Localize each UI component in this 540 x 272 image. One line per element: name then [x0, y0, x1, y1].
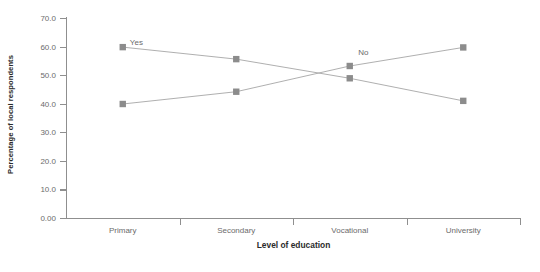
data-point-marker — [460, 98, 466, 104]
data-point-marker — [460, 44, 466, 50]
data-point-marker — [233, 89, 239, 95]
y-axis-tick-mark — [60, 218, 66, 219]
data-point-marker — [120, 101, 126, 107]
series-label-yes: Yes — [130, 38, 143, 47]
y-axis-tick-label: 50.0 — [22, 71, 56, 80]
data-point-marker — [347, 63, 353, 69]
y-axis-tick-mark — [60, 189, 66, 190]
y-axis-tick-labels: 0.0010.020.030.040.050.060.070.0 — [22, 0, 56, 272]
x-axis-category-label: Primary — [109, 226, 137, 235]
series-no — [120, 44, 467, 107]
x-axis-category-label: Secondary — [217, 226, 255, 235]
x-axis-tick-mark — [180, 219, 181, 225]
x-axis-tick-mark — [293, 219, 294, 225]
series-yes — [120, 44, 467, 104]
x-axis-category-label: Vocational — [331, 226, 368, 235]
y-axis-tick-label: 70.0 — [22, 14, 56, 23]
y-axis-line — [66, 17, 67, 219]
y-axis-tick-mark — [60, 75, 66, 76]
chart-figure: Percentage of local respondents 0.0010.0… — [0, 0, 540, 272]
y-axis-tick-mark — [60, 132, 66, 133]
series-label-no: No — [358, 48, 368, 57]
y-axis-tick-mark — [60, 47, 66, 48]
y-axis-tick-label: 10.0 — [22, 185, 56, 194]
data-point-marker — [233, 56, 239, 62]
y-axis-tick-label: 40.0 — [22, 99, 56, 108]
y-axis-tick-mark — [60, 18, 66, 19]
y-axis-tick-label: 60.0 — [22, 42, 56, 51]
series-line — [123, 47, 464, 101]
y-axis-tick-mark — [60, 104, 66, 105]
x-axis-tick-mark — [407, 219, 408, 225]
series-line — [123, 47, 464, 104]
y-axis-title: Percentage of local respondents — [0, 0, 20, 228]
y-axis-tick-label: 30.0 — [22, 128, 56, 137]
x-axis-title: Level of education — [66, 240, 521, 250]
x-axis-tick-mark — [520, 219, 521, 225]
y-axis-tick-label: 0.00 — [22, 214, 56, 223]
data-point-marker — [347, 75, 353, 81]
data-point-marker — [120, 44, 126, 50]
y-axis-tick-label: 20.0 — [22, 156, 56, 165]
x-axis-category-label: University — [446, 226, 481, 235]
y-axis-tick-mark — [60, 161, 66, 162]
y-axis-title-text: Percentage of local respondents — [6, 55, 15, 174]
